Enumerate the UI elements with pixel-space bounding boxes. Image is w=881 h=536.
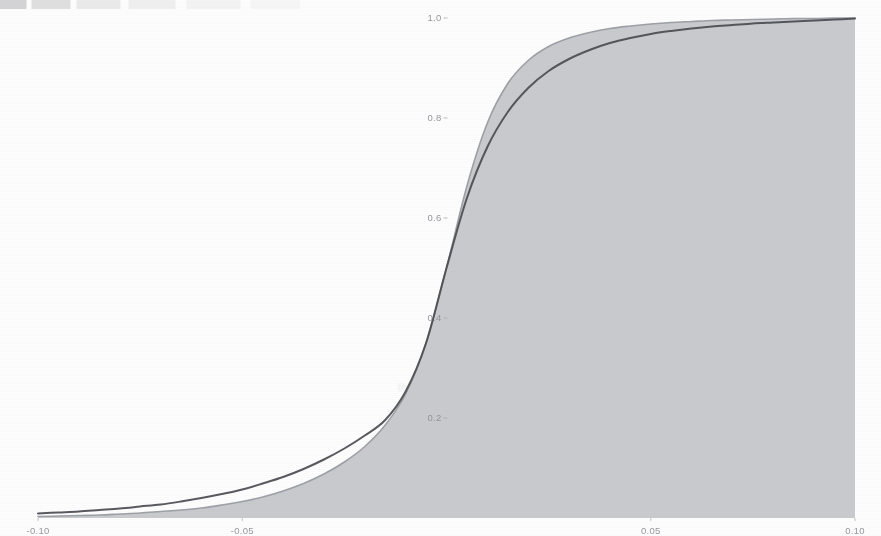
x-tick-label: 0.05 [627,525,675,536]
x-tick-label: -0.10 [14,525,62,536]
x-tick-label: 0.10 [831,525,879,536]
y-tick-label: 0.4 [416,312,442,323]
y-tick-label: 0.6 [416,212,442,223]
y-tick-label: 1.0 [416,12,442,23]
y-tick-label: 0.8 [416,112,442,123]
y-tick-label: 0.2 [416,412,442,423]
chart-canvas [0,0,881,536]
x-tick-label: -0.05 [218,525,266,536]
